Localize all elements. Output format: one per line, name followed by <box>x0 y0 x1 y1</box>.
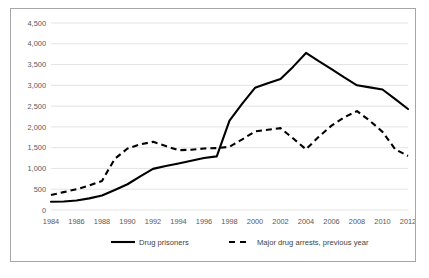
x-axis-tick-label: 2000 <box>247 217 263 226</box>
x-axis-tick-label: 1986 <box>68 217 84 226</box>
x-axis-tick-label: 2004 <box>298 217 314 226</box>
x-axis-tick-label: 1988 <box>94 217 110 226</box>
x-axis-tick-label: 2012 <box>400 217 415 226</box>
y-axis-tick-label: 3,000 <box>28 81 47 90</box>
y-axis-tick-label: 500 <box>34 185 46 194</box>
chart-legend: Drug prisonersMajor drug arrests, previo… <box>111 238 369 247</box>
x-axis-tick-label: 1984 <box>43 217 59 226</box>
line-chart: 05001,0001,5002,0002,5003,0003,5004,0004… <box>11 9 415 261</box>
series-line-solid <box>51 53 408 202</box>
x-axis-tick-label: 2010 <box>374 217 390 226</box>
y-axis-tick-label: 1,000 <box>28 164 47 173</box>
y-axis-tick-labels: 05001,0001,5002,0002,5003,0003,5004,0004… <box>28 19 47 215</box>
x-axis-tick-label: 2006 <box>323 217 339 226</box>
x-axis-tick-label: 1994 <box>170 217 186 226</box>
x-axis-tick-label: 2008 <box>349 217 365 226</box>
series-group <box>51 53 408 202</box>
legend-item-label: Drug prisoners <box>139 238 189 247</box>
y-axis-tick-label: 1,500 <box>28 143 47 152</box>
x-axis-tick-label: 1990 <box>119 217 135 226</box>
y-axis-tick-label: 0 <box>42 206 46 215</box>
y-axis-tick-label: 4,500 <box>28 19 47 28</box>
chart-container: 05001,0001,5002,0002,5003,0003,5004,0004… <box>10 8 416 262</box>
y-axis-tick-label: 4,000 <box>28 39 47 48</box>
y-axis-tick-label: 2,500 <box>28 102 47 111</box>
x-axis-tick-label: 1996 <box>196 217 212 226</box>
x-axis-tick-labels: 1984198619881990199219941996199820002002… <box>43 217 415 226</box>
y-axis-tick-label: 2,000 <box>28 123 47 132</box>
y-axis-tick-label: 3,500 <box>28 60 47 69</box>
gridlines-group <box>51 23 408 210</box>
x-axis-tick-label: 2002 <box>272 217 288 226</box>
x-axis-tick-label: 1992 <box>145 217 161 226</box>
x-axis-tick-label: 1998 <box>221 217 237 226</box>
legend-item-label: Major drug arrests, previous year <box>257 238 369 247</box>
